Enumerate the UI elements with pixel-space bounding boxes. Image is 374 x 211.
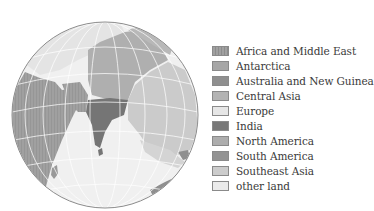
swatch — [212, 91, 229, 101]
swatch — [212, 166, 229, 176]
legend-label: South America — [236, 150, 314, 162]
legend-label: Europe — [236, 105, 274, 117]
legend-item-central-asia: Central Asia — [212, 88, 356, 103]
legend: Africa and Middle East Antarctica Austra… — [212, 43, 356, 193]
legend-label: Central Asia — [236, 90, 301, 102]
globe-svg — [0, 0, 210, 211]
legend-item-south-america: South America — [212, 148, 356, 163]
legend-item-southeast-asia: Southeast Asia — [212, 163, 356, 178]
legend-item-australia-new-guinea: Australia and New Guinea — [212, 73, 356, 88]
legend-label: Antarctica — [236, 60, 290, 72]
swatch — [212, 181, 229, 191]
legend-label: Africa and Middle East — [236, 45, 356, 57]
swatch — [212, 151, 229, 161]
legend-item-africa-middle-east: Africa and Middle East — [212, 43, 356, 58]
swatch — [212, 136, 229, 146]
swatch — [212, 106, 229, 116]
swatch — [212, 46, 229, 56]
legend-label: India — [236, 120, 263, 132]
legend-label: Southeast Asia — [236, 165, 314, 177]
legend-label: North America — [236, 135, 314, 147]
legend-item-other-land: other land — [212, 178, 356, 193]
swatch — [212, 76, 229, 86]
legend-label: other land — [236, 180, 290, 192]
swatch — [212, 61, 229, 71]
legend-item-north-america: North America — [212, 133, 356, 148]
legend-item-antarctica: Antarctica — [212, 58, 356, 73]
globe-map — [0, 0, 210, 211]
legend-item-europe: Europe — [212, 103, 356, 118]
legend-label: Australia and New Guinea — [236, 75, 374, 87]
legend-item-india: India — [212, 118, 356, 133]
swatch — [212, 121, 229, 131]
